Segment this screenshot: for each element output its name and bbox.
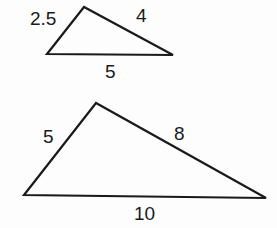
small-triangle: 2.5 4 5 xyxy=(30,5,173,82)
small-left-side-label: 2.5 xyxy=(30,8,56,29)
small-triangle-outline xyxy=(47,7,173,55)
similar-triangles-diagram: 2.5 4 5 5 8 10 xyxy=(0,0,277,228)
diagram-svg: 2.5 4 5 5 8 10 xyxy=(0,0,277,228)
large-left-side-label: 5 xyxy=(43,126,54,147)
small-right-side-label: 4 xyxy=(136,5,147,26)
large-base-label: 10 xyxy=(134,203,155,224)
large-triangle-outline xyxy=(24,103,266,198)
large-triangle: 5 8 10 xyxy=(24,103,266,224)
large-right-side-label: 8 xyxy=(174,123,185,144)
small-base-label: 5 xyxy=(105,61,116,82)
